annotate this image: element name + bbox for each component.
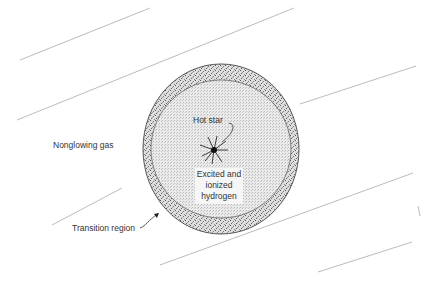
- hot-star-label: Hot star: [193, 115, 223, 125]
- transition-region-leader: [140, 214, 158, 228]
- excited-label-line1: Excited and: [192, 169, 246, 179]
- transition-arrowhead-icon: [154, 213, 159, 218]
- transition-region-label: Transition region: [72, 223, 135, 233]
- excited-label-line3: hydrogen: [192, 191, 246, 201]
- excited-label-line2: ionized: [192, 180, 246, 190]
- hot-star-core: [211, 147, 217, 153]
- nonglowing-gas-label: Nonglowing gas: [53, 140, 113, 150]
